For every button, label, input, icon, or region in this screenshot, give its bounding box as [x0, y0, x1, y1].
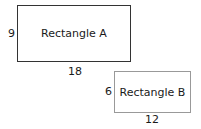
rectangle-b-label: Rectangle B	[120, 86, 186, 99]
rectangle-b: Rectangle B	[114, 71, 191, 113]
rectangle-a-label: Rectangle A	[41, 27, 107, 40]
rectangle-a: Rectangle A	[17, 5, 131, 62]
rectangle-b-width: 12	[145, 114, 159, 126]
rectangle-a-height: 9	[8, 28, 15, 40]
rectangle-a-width: 18	[68, 66, 82, 78]
rectangle-b-height: 6	[105, 86, 112, 98]
